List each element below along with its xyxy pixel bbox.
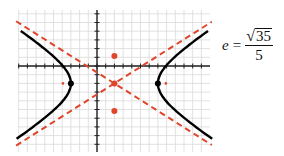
numerator: √ 35 bbox=[245, 28, 273, 44]
co-vertex-point bbox=[111, 108, 117, 114]
focus-point bbox=[165, 82, 168, 85]
hyperbola-left-branch bbox=[17, 31, 71, 139]
equals-sign: = bbox=[233, 37, 241, 54]
eccentricity-equation: e = √ 35 5 bbox=[222, 28, 273, 63]
radicand: 35 bbox=[255, 28, 272, 44]
vertex-point bbox=[68, 80, 74, 86]
hyperbola-graph bbox=[0, 0, 220, 156]
denominator: 5 bbox=[255, 47, 263, 63]
fraction-bar bbox=[245, 45, 273, 46]
fraction: √ 35 5 bbox=[245, 28, 273, 63]
focus-point bbox=[62, 82, 65, 85]
co-vertex-point bbox=[111, 53, 117, 59]
eccentricity-symbol: e bbox=[222, 37, 229, 54]
hyperbola-right-branch bbox=[158, 31, 212, 139]
center-point bbox=[111, 80, 117, 86]
vertex-point bbox=[155, 80, 161, 86]
sqrt-icon: √ bbox=[246, 28, 255, 44]
